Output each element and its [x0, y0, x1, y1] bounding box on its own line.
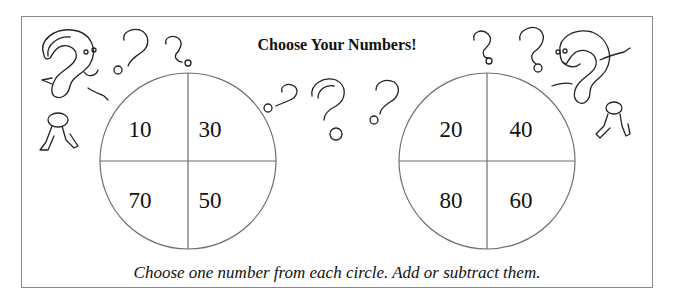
- instructions-text: Choose one number from each circle. Add …: [21, 263, 653, 283]
- page-title: Choose Your Numbers!: [232, 36, 442, 54]
- right-circle-number-bottom-left[interactable]: 80: [421, 189, 481, 212]
- left-circle-number-top-left[interactable]: 10: [110, 118, 170, 141]
- right-circle-number-bottom-right[interactable]: 60: [491, 189, 551, 212]
- right-number-circle: [399, 73, 575, 249]
- question-mark-character-right-icon: [552, 31, 630, 138]
- left-circle-number-bottom-left[interactable]: 70: [110, 189, 170, 212]
- right-circle-number-top-right[interactable]: 40: [491, 118, 551, 141]
- left-circle-number-bottom-right[interactable]: 50: [180, 189, 240, 212]
- question-mark-doodle-icon: [114, 29, 191, 74]
- question-mark-doodle-icon: [474, 28, 544, 72]
- left-number-circle: [100, 73, 276, 249]
- question-mark-character-left-icon: [40, 30, 108, 150]
- question-mark-doodle-icon: [264, 79, 398, 140]
- right-circle-number-top-left[interactable]: 20: [421, 118, 481, 141]
- left-circle-number-top-right[interactable]: 30: [180, 118, 240, 141]
